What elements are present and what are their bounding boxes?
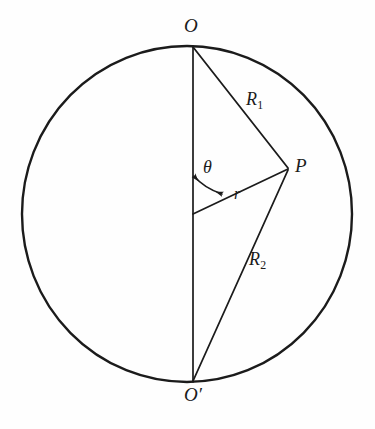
label-radius-r2: R2	[249, 250, 266, 268]
figure-canvas	[0, 0, 375, 429]
label-r2-subscript: 2	[260, 258, 266, 272]
label-r2-base: R	[249, 249, 260, 269]
label-point-o: O	[184, 16, 198, 35]
label-o-prime-base: O	[184, 384, 198, 405]
label-radius-r1: R1	[246, 90, 263, 108]
label-point-o-prime: O′	[184, 385, 202, 404]
label-r1-subscript: 1	[257, 98, 263, 112]
geometry-figure: O O′ P θ r R1 R2	[0, 0, 375, 429]
label-o-prime-mark: ′	[198, 384, 202, 405]
label-angle-theta: θ	[203, 158, 212, 176]
angle-arc-theta	[194, 176, 222, 194]
label-point-p: P	[295, 156, 307, 175]
label-radius-r: r	[234, 186, 240, 202]
circle-outline	[22, 46, 352, 382]
segment-R1	[193, 47, 288, 168]
segment-R2	[193, 170, 288, 381]
label-r1-base: R	[246, 89, 257, 109]
